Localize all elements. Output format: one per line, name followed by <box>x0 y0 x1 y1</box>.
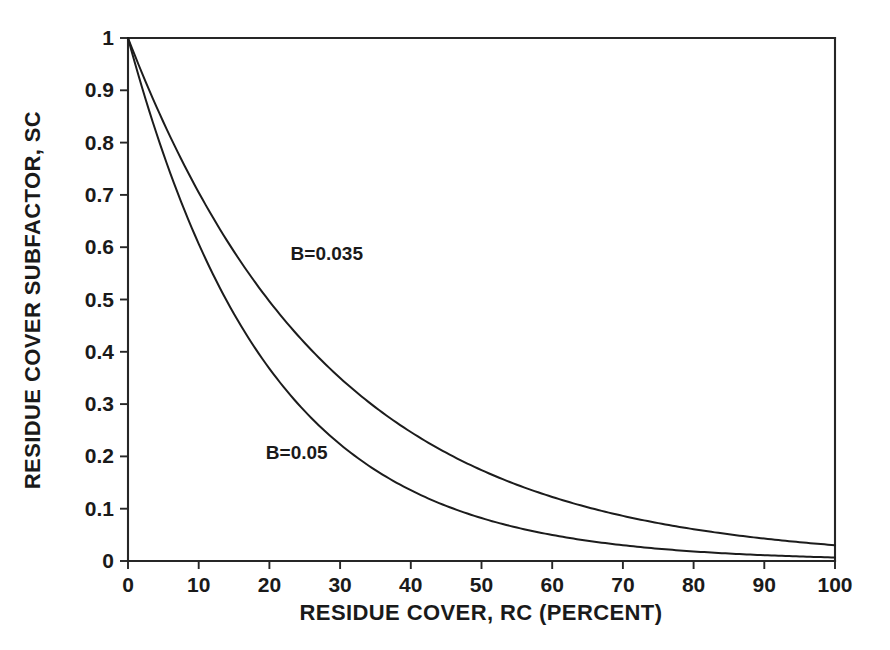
y-tick-label: 0.6 <box>85 235 114 258</box>
curve-b-0-035 <box>128 38 835 545</box>
x-tick-label: 40 <box>399 573 422 596</box>
curve-b-0-05 <box>128 38 835 557</box>
y-tick-label: 0.8 <box>85 131 115 154</box>
x-tick-label: 0 <box>122 573 134 596</box>
x-tick-label: 30 <box>328 573 351 596</box>
y-axis-ticks: 00.10.20.30.40.50.60.70.80.91 <box>85 26 128 572</box>
residue-cover-subfactor-chart: 00.10.20.30.40.50.60.70.80.91 0102030405… <box>0 0 890 650</box>
chart-figure: 00.10.20.30.40.50.60.70.80.91 0102030405… <box>0 0 890 650</box>
x-axis-title: RESIDUE COVER, RC (PERCENT) <box>300 600 663 625</box>
y-tick-label: 0.7 <box>85 183 114 206</box>
x-axis-ticks: 0102030405060708090100 <box>122 561 852 596</box>
curve-group <box>128 38 835 557</box>
y-tick-label: 0.5 <box>85 288 115 311</box>
x-tick-label: 100 <box>817 573 852 596</box>
series-label: B=0.035 <box>291 243 364 264</box>
x-tick-label: 70 <box>611 573 634 596</box>
y-tick-label: 0 <box>102 549 114 572</box>
y-tick-label: 1 <box>102 26 114 49</box>
y-tick-label: 0.9 <box>85 78 114 101</box>
series-label: B=0.05 <box>266 442 328 463</box>
y-axis-title: RESIDUE COVER SUBFACTOR, SC <box>20 111 45 489</box>
y-tick-label: 0.3 <box>85 392 114 415</box>
x-tick-label: 20 <box>258 573 281 596</box>
y-tick-label: 0.4 <box>85 340 115 363</box>
x-tick-label: 60 <box>541 573 564 596</box>
x-tick-label: 90 <box>753 573 776 596</box>
y-tick-label: 0.1 <box>85 497 115 520</box>
x-tick-label: 10 <box>187 573 210 596</box>
x-tick-label: 80 <box>682 573 705 596</box>
y-tick-label: 0.2 <box>85 444 114 467</box>
x-tick-label: 50 <box>470 573 493 596</box>
axis-frame <box>128 38 835 561</box>
